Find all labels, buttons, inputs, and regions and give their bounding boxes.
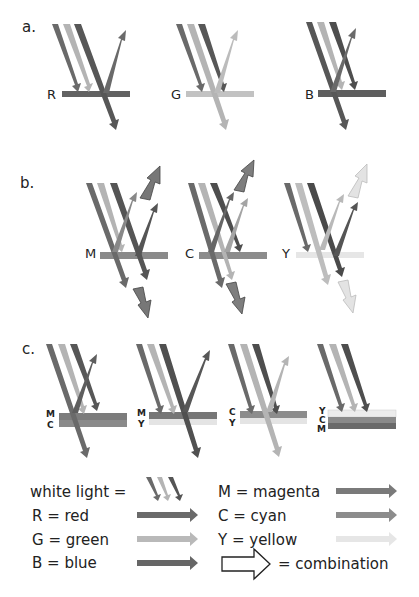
filter-label-g: G bbox=[171, 87, 181, 102]
panel-cyan-yellow: C Y bbox=[228, 344, 307, 457]
legend-magenta: M = magenta bbox=[218, 483, 320, 501]
legend-red: R = red bbox=[32, 507, 89, 525]
filter-label-c: C bbox=[185, 246, 194, 261]
filter-label-top: M bbox=[137, 408, 146, 418]
filter-label-y: Y bbox=[281, 246, 290, 261]
filter-label-bottom: C bbox=[47, 420, 54, 430]
panel-green-filter: G bbox=[171, 24, 254, 130]
combination-arrow-icon bbox=[222, 549, 270, 579]
panel-magenta-filter: M bbox=[85, 166, 168, 318]
legend: white light = R = red G = green B = blue… bbox=[30, 477, 397, 579]
legend-yellow: Y = yellow bbox=[217, 531, 297, 549]
filter-label-bottom: Y bbox=[137, 419, 145, 429]
panel-magenta-cyan: M C bbox=[46, 344, 127, 458]
filter-label-top: C bbox=[229, 407, 236, 417]
panel-blue-filter: B bbox=[305, 22, 386, 130]
section-b-label: b. bbox=[20, 174, 34, 192]
panel-cyan-filter: C bbox=[185, 160, 267, 314]
legend-combination: = combination bbox=[278, 555, 389, 573]
filter-label-b: B bbox=[305, 87, 314, 102]
legend-white-light: white light = bbox=[30, 483, 126, 501]
filter-label-top: M bbox=[46, 409, 55, 419]
legend-green: G = green bbox=[32, 531, 109, 549]
section-c-label: c. bbox=[22, 340, 35, 358]
filter-label-bottom: Y bbox=[228, 418, 236, 428]
section-a-label: a. bbox=[22, 18, 36, 36]
subtractive-color-diagram: a. R G B b. bbox=[0, 0, 419, 597]
legend-blue: B = blue bbox=[32, 554, 97, 572]
legend-cyan: C = cyan bbox=[218, 507, 286, 525]
panel-yellow-cyan-magenta: Y C M bbox=[317, 344, 396, 434]
panel-red-filter: R bbox=[47, 24, 130, 130]
filter-label-m: M bbox=[85, 246, 96, 261]
panel-yellow-filter: Y bbox=[281, 164, 367, 313]
filter-label-r: R bbox=[47, 87, 56, 102]
panel-magenta-yellow: M Y bbox=[136, 344, 217, 458]
filter-label-bottom: M bbox=[317, 424, 326, 434]
